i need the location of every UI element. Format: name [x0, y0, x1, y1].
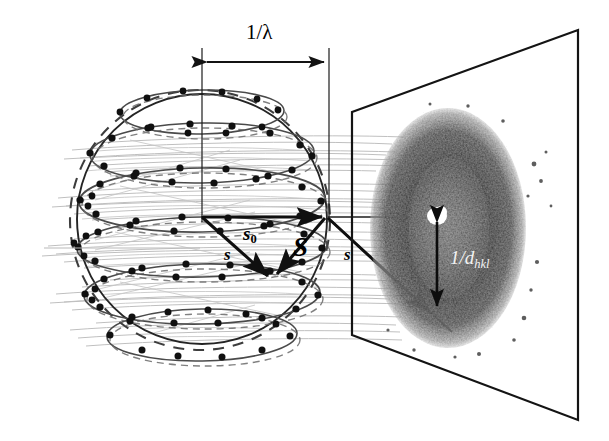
label-s-diffracted: s [344, 246, 351, 263]
inner-ring-gap [409, 158, 489, 298]
label-s-incident: s [224, 246, 231, 263]
figure-canvas: 1/λ s0 s S s 1/dhkl [0, 0, 609, 441]
label-s0-subscript: 0 [250, 232, 256, 246]
label-dhkl-den: d [465, 247, 475, 268]
label-one-over-lambda: 1/λ [246, 22, 273, 43]
ewald-sphere-diagram [0, 0, 609, 441]
label-s0: s0 [243, 224, 257, 246]
label-one-over-dhkl: 1/dhkl [450, 248, 490, 270]
label-S-scattering: S [293, 234, 308, 261]
label-dhkl-num: 1/ [450, 247, 465, 268]
label-dhkl-subscript: hkl [474, 257, 489, 271]
beamstop-highlight [435, 206, 447, 218]
